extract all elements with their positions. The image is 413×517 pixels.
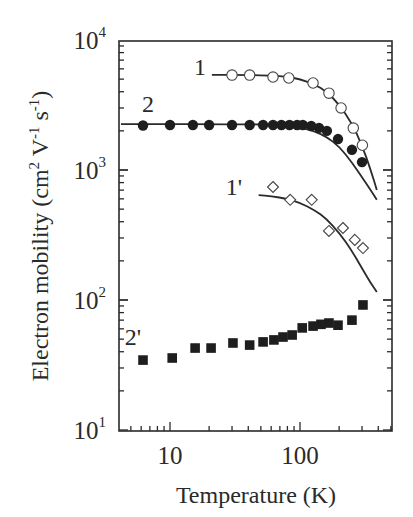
open-diamond-point bbox=[268, 181, 279, 192]
y-axis-title: Electron mobility (cm2 V-1 s-1) bbox=[26, 91, 53, 382]
open-circle-point bbox=[357, 140, 367, 150]
filled-circle-point bbox=[347, 145, 357, 155]
filled-circle-point bbox=[138, 120, 148, 130]
filled-square-point bbox=[278, 332, 288, 342]
filled-square-point bbox=[347, 315, 357, 325]
series-label-2prime: 2' bbox=[125, 324, 141, 350]
filled-circle-point bbox=[204, 120, 214, 130]
open-circle-point bbox=[324, 88, 334, 98]
filled-circle-point bbox=[188, 120, 198, 130]
filled-square-point bbox=[258, 337, 268, 347]
open-diamond-point bbox=[349, 234, 360, 245]
x-tick-label: 10 bbox=[158, 442, 183, 469]
filled-square-point bbox=[287, 330, 297, 340]
filled-circle-point bbox=[227, 120, 237, 130]
fit-curve-1prime bbox=[259, 195, 377, 292]
filled-square-point bbox=[228, 338, 238, 348]
open-circle-point bbox=[348, 123, 358, 133]
filled-square-point bbox=[358, 300, 368, 310]
y-tick-label: 101 bbox=[74, 414, 107, 444]
x-axis-ticks: 10100 bbox=[131, 422, 391, 469]
x-axis-title: Temperature (K) bbox=[176, 482, 336, 508]
filled-square-point bbox=[324, 318, 334, 328]
x-tick-label: 100 bbox=[281, 442, 319, 469]
data-points bbox=[138, 70, 369, 365]
filled-circle-point bbox=[244, 120, 254, 130]
series-label-2: 2 bbox=[142, 91, 154, 117]
y-axis-ticks: 101102103104 bbox=[74, 24, 393, 444]
filled-square-point bbox=[245, 340, 255, 350]
open-diamond-point bbox=[306, 194, 317, 205]
y-tick-label: 102 bbox=[74, 284, 107, 314]
mobility-chart: 101102103104 10100 121'2' Temperature (K… bbox=[0, 0, 413, 517]
filled-square-point bbox=[269, 335, 279, 345]
y-axis-title-text: Electron mobility (cm bbox=[27, 169, 53, 381]
filled-circle-point bbox=[165, 120, 175, 130]
plot-frame bbox=[119, 41, 392, 431]
open-circle-point bbox=[268, 72, 278, 82]
filled-square-point bbox=[333, 320, 343, 330]
open-circle-point bbox=[284, 73, 294, 83]
open-circle-point bbox=[336, 103, 346, 113]
filled-square-point bbox=[297, 323, 307, 333]
series-labels: 121'2' bbox=[125, 54, 242, 350]
series-label-1: 1 bbox=[194, 54, 206, 80]
filled-square-point bbox=[138, 355, 148, 365]
filled-circle-point bbox=[258, 120, 268, 130]
open-circle-point bbox=[244, 70, 254, 80]
open-diamond-point bbox=[357, 243, 368, 254]
open-circle-point bbox=[227, 70, 237, 80]
filled-circle-point bbox=[333, 134, 343, 144]
filled-circle-point bbox=[322, 126, 332, 136]
filled-square-point bbox=[167, 353, 177, 363]
filled-square-point bbox=[190, 343, 200, 353]
y-tick-label: 103 bbox=[74, 154, 107, 184]
series-label-1prime: 1' bbox=[226, 174, 242, 200]
filled-circle-point bbox=[357, 157, 367, 167]
plot-border bbox=[119, 41, 392, 431]
filled-square-point bbox=[206, 343, 216, 353]
open-circle-point bbox=[308, 78, 318, 88]
y-tick-label: 104 bbox=[74, 24, 107, 54]
open-diamond-point bbox=[285, 194, 296, 205]
